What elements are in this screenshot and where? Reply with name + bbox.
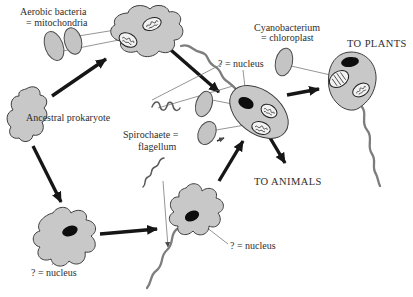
cyanobacterium — [273, 47, 295, 78]
endosymbiosis-diagram: Aerobic bacteria = mitochondria Cyanobac… — [0, 0, 413, 297]
flagellated-cell-body — [169, 184, 223, 235]
spirochaete-lower — [143, 158, 164, 187]
amoeboid-cell — [33, 207, 95, 266]
arrow-amoeboid-to-flagellated-cell — [100, 229, 157, 234]
host-cell-with-mitochondria — [111, 5, 183, 56]
engulfed-bacterium-lower — [194, 119, 220, 148]
aerobic-bacterium-2 — [61, 26, 84, 56]
plant-lineage-cell — [326, 52, 380, 186]
label-spirochaete-line1: Spirochaete = — [123, 129, 179, 140]
label-to-animals: TO ANIMALS — [254, 176, 322, 187]
engulfment-arrow — [217, 138, 224, 141]
amoeboid-cell-body — [33, 207, 95, 266]
label-cyanobacterium-line2: = chloroplast — [261, 32, 314, 43]
label-ancestral-prokaryote: Ancestral prokaryote — [26, 112, 111, 123]
diagram-canvas: Aerobic bacteria = mitochondria Cyanobac… — [0, 0, 413, 297]
label-question-nucleus-top: ? = nucleus — [218, 58, 264, 69]
label-question-nucleus-right: ? = nucleus — [230, 240, 276, 251]
arrow-ancestral-to-amoeboid-cell — [33, 146, 61, 202]
plant-cell-flagellum — [362, 107, 380, 186]
label-aerobic-bacteria-line2: = mitochondria — [26, 17, 88, 28]
flagellated-cell — [147, 184, 223, 288]
host-cell-body — [111, 5, 183, 56]
aerobic-bacterium-1 — [40, 29, 67, 63]
arrow-aerobic-host-to-central-cell — [164, 44, 219, 92]
label-question-nucleus-left: ? = nucleus — [31, 267, 77, 278]
spirochaete-upper — [152, 102, 180, 110]
label-to-plants: TO PLANTS — [347, 38, 407, 49]
arrow-central-to-plant-cell — [287, 89, 319, 95]
arrow-ancestral-to-aerobic-host — [52, 59, 106, 96]
flagellated-cell-flagellum — [147, 229, 177, 288]
label-spirochaete-line2: flagellum — [138, 141, 177, 152]
aerobic-bacteria — [40, 26, 84, 63]
arrow-flagellated-to-central-cell — [219, 141, 243, 181]
label-aerobic-bacteria-line1: Aerobic bacteria — [20, 6, 87, 17]
line-spirochaete-to-flagellum-base — [163, 181, 168, 247]
engulfed-bacterium-upper — [192, 89, 215, 119]
